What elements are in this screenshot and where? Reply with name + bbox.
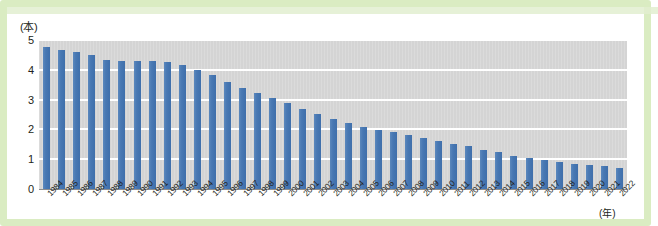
y-axis-tick-label: 4 — [28, 64, 34, 75]
bar[interactable] — [134, 61, 141, 189]
bar[interactable] — [58, 50, 65, 189]
page-top-strip — [7, 7, 658, 14]
bar[interactable] — [269, 98, 276, 189]
bar[interactable] — [43, 47, 50, 189]
bar[interactable] — [88, 55, 95, 189]
bar[interactable] — [254, 93, 261, 189]
bar[interactable] — [73, 52, 80, 189]
bar[interactable] — [239, 88, 246, 189]
gridline — [39, 99, 627, 101]
bar[interactable] — [194, 70, 201, 189]
y-axis-tick-label: 1 — [28, 154, 34, 165]
bar[interactable] — [224, 82, 231, 189]
plot-area-wrapper: 012345 — [39, 40, 627, 189]
plot-area — [39, 40, 627, 189]
bar[interactable] — [314, 114, 321, 189]
bar[interactable] — [118, 61, 125, 189]
bar[interactable] — [103, 60, 110, 189]
bar[interactable] — [330, 119, 337, 189]
x-axis-ticks-group: 1984198519861987198819891990199119921993… — [39, 191, 627, 225]
bar[interactable] — [164, 62, 171, 189]
y-axis-unit-label: (本) — [20, 18, 37, 34]
y-axis-tick-label: 2 — [28, 124, 34, 135]
bar[interactable] — [299, 109, 306, 189]
y-axis-tick-label: 3 — [28, 94, 34, 105]
bar[interactable] — [179, 65, 186, 189]
y-axis-tick-label: 5 — [28, 35, 34, 46]
x-axis-unit-label: (年) — [599, 205, 616, 220]
bar[interactable] — [209, 75, 216, 189]
gridline — [39, 39, 627, 41]
bar[interactable] — [284, 103, 291, 189]
gridline — [39, 69, 627, 71]
y-axis-tick-label: 0 — [28, 184, 34, 195]
bar[interactable] — [149, 61, 156, 189]
